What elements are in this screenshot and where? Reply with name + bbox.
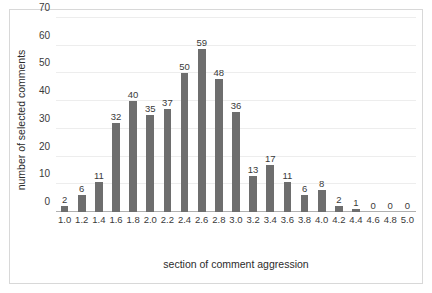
bar-slot: 0 xyxy=(399,18,416,212)
bar-value-label: 6 xyxy=(302,183,307,194)
bar-slot: 11 xyxy=(90,18,107,212)
x-tick-label: 4.8 xyxy=(382,214,399,225)
bar-slot: 1 xyxy=(347,18,364,212)
bar-value-label: 37 xyxy=(162,97,173,108)
bar-slot: 13 xyxy=(245,18,262,212)
x-tick-label: 3.2 xyxy=(245,214,262,225)
bar: 32 xyxy=(112,123,120,212)
bar-value-label: 8 xyxy=(319,178,324,189)
bar-slot: 40 xyxy=(125,18,142,212)
bar-value-label: 0 xyxy=(405,200,410,211)
x-tick-label: 3.8 xyxy=(296,214,313,225)
bar-slot: 48 xyxy=(210,18,227,212)
y-tick-label: 20 xyxy=(39,140,50,151)
bar-value-label: 17 xyxy=(265,153,276,164)
bar-value-label: 2 xyxy=(62,194,67,205)
bar: 6 xyxy=(78,195,86,212)
x-tick-label: 1.8 xyxy=(125,214,142,225)
bar: 36 xyxy=(232,112,240,212)
bar-slot: 8 xyxy=(313,18,330,212)
y-tick-label: 10 xyxy=(39,168,50,179)
bar-slot: 2 xyxy=(330,18,347,212)
x-tick-label: 1.2 xyxy=(73,214,90,225)
y-tick-label: 70 xyxy=(39,2,50,13)
bar-value-label: 36 xyxy=(231,100,242,111)
x-tick-label: 4.2 xyxy=(330,214,347,225)
bar-slot: 0 xyxy=(382,18,399,212)
bar-value-label: 50 xyxy=(179,61,190,72)
bar: 17 xyxy=(266,165,274,212)
bar: 8 xyxy=(318,190,326,212)
bar-value-label: 13 xyxy=(248,164,259,175)
x-tick-label: 4.0 xyxy=(313,214,330,225)
bar: 13 xyxy=(249,176,257,212)
bar-value-label: 40 xyxy=(128,89,139,100)
bar: 2 xyxy=(61,206,69,212)
x-axis-title: section of comment aggression xyxy=(56,258,416,270)
bar-slot: 0 xyxy=(365,18,382,212)
bar-slot: 6 xyxy=(73,18,90,212)
bar-slot: 6 xyxy=(296,18,313,212)
x-axis-ticks: 1.01.21.41.61.82.02.22.42.62.83.03.23.43… xyxy=(56,214,416,225)
bar: 40 xyxy=(129,101,137,212)
x-tick-label: 3.4 xyxy=(262,214,279,225)
bar-slot: 37 xyxy=(159,18,176,212)
bar-value-label: 0 xyxy=(388,200,393,211)
x-tick-label: 2.8 xyxy=(210,214,227,225)
bar-value-label: 32 xyxy=(111,111,122,122)
bar-value-label: 0 xyxy=(370,200,375,211)
y-tick-label: 60 xyxy=(39,29,50,40)
bar: 50 xyxy=(181,73,189,212)
chart-figure: number of selected comments 010203040506… xyxy=(0,0,432,293)
bar-value-label: 35 xyxy=(145,103,156,114)
bar: 1 xyxy=(352,209,360,212)
x-tick-label: 4.6 xyxy=(365,214,382,225)
x-tick-label: 1.0 xyxy=(56,214,73,225)
bar-value-label: 6 xyxy=(79,183,84,194)
x-tick-label: 3.6 xyxy=(279,214,296,225)
bar-slot: 50 xyxy=(176,18,193,212)
bar-value-label: 11 xyxy=(94,170,104,181)
bar-slot: 32 xyxy=(107,18,124,212)
bar: 6 xyxy=(301,195,309,212)
bar-slot: 59 xyxy=(193,18,210,212)
x-tick-label: 1.4 xyxy=(90,214,107,225)
bar-value-label: 48 xyxy=(214,67,225,78)
x-tick-label: 2.6 xyxy=(193,214,210,225)
bar: 37 xyxy=(164,109,172,212)
x-tick-label: 2.4 xyxy=(176,214,193,225)
bar: 11 xyxy=(95,182,103,212)
x-tick-label: 1.6 xyxy=(107,214,124,225)
y-tick-label: 30 xyxy=(39,112,50,123)
y-tick-label: 50 xyxy=(39,57,50,68)
bar-series: 261132403537505948361317116821000 xyxy=(56,18,416,212)
bar-slot: 17 xyxy=(262,18,279,212)
bar-value-label: 11 xyxy=(282,170,292,181)
y-tick-label: 0 xyxy=(44,196,50,207)
x-tick-label: 2.0 xyxy=(142,214,159,225)
bar-slot: 36 xyxy=(227,18,244,212)
bar-value-label: 2 xyxy=(336,194,341,205)
bar-value-label: 59 xyxy=(196,37,207,48)
bar: 48 xyxy=(215,79,223,212)
bar-slot: 11 xyxy=(279,18,296,212)
x-tick-label: 4.4 xyxy=(347,214,364,225)
y-axis-title: number of selected comments xyxy=(14,15,28,225)
x-tick-label: 2.2 xyxy=(159,214,176,225)
bar-value-label: 1 xyxy=(353,197,358,208)
bar-slot: 2 xyxy=(56,18,73,212)
bar: 11 xyxy=(284,182,292,212)
x-tick-label: 5.0 xyxy=(399,214,416,225)
y-tick-label: 40 xyxy=(39,85,50,96)
x-tick-label: 3.0 xyxy=(227,214,244,225)
bar: 35 xyxy=(146,115,154,212)
plot-area: 010203040506070 261132403537505948361317… xyxy=(56,18,416,212)
bar: 2 xyxy=(335,206,343,212)
bar-slot: 35 xyxy=(142,18,159,212)
bar: 59 xyxy=(198,49,206,213)
